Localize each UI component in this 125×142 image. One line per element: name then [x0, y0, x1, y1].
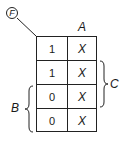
- row-variable-label-b: B: [11, 101, 19, 115]
- column-variable-label-a: A: [78, 20, 86, 34]
- row-variable-label-c: C: [110, 77, 119, 91]
- cell-r1-c0: 1: [37, 61, 67, 85]
- brace-b-icon: [23, 85, 35, 133]
- kmap-grid: 1 X 1 X 0 X 0 X: [36, 36, 97, 132]
- cell-r2-c1: X: [67, 85, 97, 109]
- cell-r2-c0: 0: [37, 85, 67, 109]
- cell-r0-c0: 1: [37, 37, 67, 61]
- cell-r3-c0: 0: [37, 109, 67, 133]
- cell-r0-c1: X: [67, 37, 97, 61]
- cell-r3-c1: X: [67, 109, 97, 133]
- cell-r1-c1: X: [67, 61, 97, 85]
- brace-c-icon: [98, 60, 110, 108]
